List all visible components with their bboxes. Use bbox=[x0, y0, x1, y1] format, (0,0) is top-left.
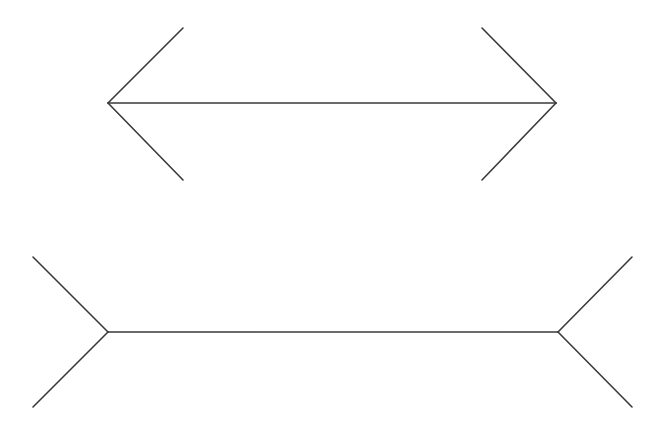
muller-lyer-diagram bbox=[0, 0, 663, 432]
background bbox=[0, 0, 663, 432]
